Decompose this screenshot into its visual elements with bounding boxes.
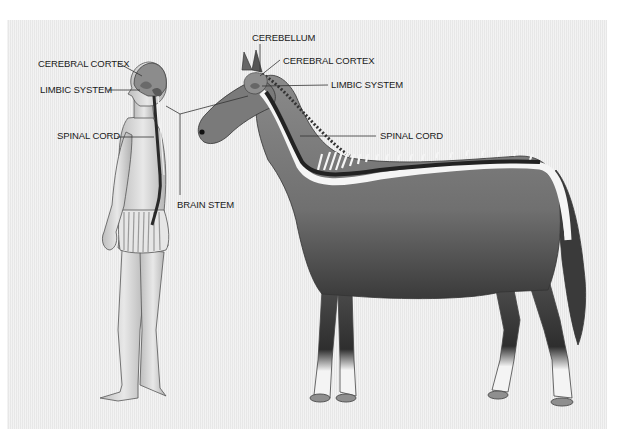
horse-cerebral-cortex-label: CEREBRAL CORTEX [283, 55, 374, 66]
horse-figure [198, 50, 585, 406]
human-cerebral-cortex-label: CEREBRAL CORTEX [38, 58, 129, 69]
human-figure [100, 62, 169, 401]
brain-stem-label: BRAIN STEM [177, 199, 234, 210]
human-limbic-system-label: LIMBIC SYSTEM [40, 84, 112, 95]
human-spinal-cord-label: SPINAL CORD [57, 130, 120, 141]
horse-limbic-system-label: LIMBIC SYSTEM [331, 79, 403, 90]
horse-spinal-cord-label: SPINAL CORD [380, 130, 443, 141]
horse-cerebellum-label: CEREBELLUM [252, 32, 315, 43]
